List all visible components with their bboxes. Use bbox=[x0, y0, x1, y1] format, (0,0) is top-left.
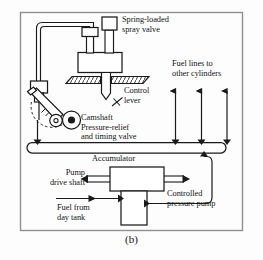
fuel-line-risers bbox=[176, 91, 228, 143]
spray-valve-left-cap bbox=[82, 28, 98, 37]
arc-tick-a bbox=[42, 109, 46, 113]
pump-drive-shaft-right bbox=[164, 176, 184, 182]
label-control-lever: Control lever bbox=[124, 86, 149, 105]
spray-valve-spring-cap bbox=[102, 17, 117, 30]
arc-tick-b bbox=[46, 113, 50, 117]
label-accumulator: Accumulator bbox=[92, 154, 135, 164]
spray-valve-body bbox=[78, 53, 122, 73]
label-controlled-pressure-pump: Controlled pressure pump bbox=[167, 189, 215, 208]
label-spray-valve: Spring-loaded spray valve bbox=[122, 15, 169, 34]
pump-lower-chamber bbox=[121, 191, 147, 225]
figure-caption: (b) bbox=[0, 235, 263, 245]
spray-valve-right-stem bbox=[105, 30, 114, 53]
label-fuel-from-day-tank: Fuel from day tank bbox=[57, 203, 90, 222]
pump-body bbox=[110, 167, 164, 191]
accumulator-body bbox=[27, 143, 226, 154]
injector-nozzle bbox=[102, 73, 111, 100]
label-camshaft-relief-valve: Camshaft Pressure-relief and timing valv… bbox=[81, 113, 137, 142]
pump-drive-shaft-left bbox=[86, 176, 110, 182]
spray-valve-left-stem bbox=[87, 36, 94, 53]
figure-root: Spring-loaded spray valve Fuel lines to … bbox=[0, 0, 263, 260]
roller-follower-pin bbox=[54, 118, 58, 122]
label-fuel-lines: Fuel lines to other cylinders bbox=[172, 59, 221, 78]
label-pump-drive-shaft: Pump drive shaft bbox=[19, 168, 85, 187]
control-lever-pointer bbox=[112, 98, 123, 107]
fuel-inlet-arrow bbox=[89, 195, 97, 202]
camshaft-center bbox=[68, 116, 75, 123]
drive-shaft-right-tip bbox=[183, 175, 191, 183]
